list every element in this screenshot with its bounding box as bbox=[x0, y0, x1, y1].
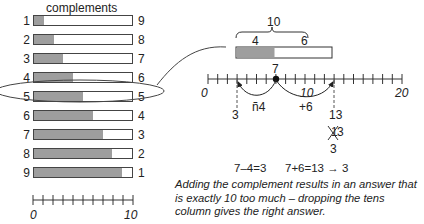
highlight-ellipse bbox=[0, 80, 164, 102]
diagram-graphics bbox=[0, 0, 424, 224]
bar-4-fill bbox=[237, 48, 275, 58]
left-scale bbox=[33, 195, 133, 205]
brace bbox=[236, 27, 308, 38]
